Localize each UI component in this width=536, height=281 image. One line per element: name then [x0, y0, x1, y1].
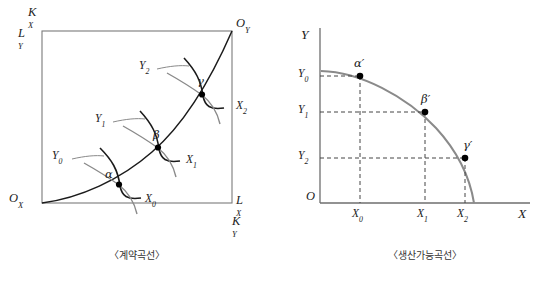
figure-canvas	[0, 0, 536, 281]
label-lx-ky-corner: LX KY	[236, 194, 243, 238]
label-point-gamma: γ	[197, 76, 204, 88]
label-isoquant-x1: X1	[186, 154, 197, 168]
isoquant-y1-curve	[140, 111, 180, 162]
isoquant-x1-curve	[123, 126, 176, 177]
ppf-panel	[320, 28, 530, 203]
label-ppf-y-axis: Y	[301, 28, 309, 42]
leader-line-y1	[113, 119, 145, 122]
tick-label-x2: X2	[457, 208, 468, 222]
label-isoquant-y1: Y1	[95, 113, 105, 127]
ppf-curve	[321, 71, 474, 203]
label-oy-corner: OY	[236, 17, 250, 32]
tick-label-y1: Y1	[298, 104, 308, 118]
label-ox-corner: OX	[9, 192, 23, 207]
edgeworth-box	[42, 31, 232, 203]
tangency-point-beta	[155, 144, 161, 150]
isoquant-y2-curve	[184, 58, 224, 109]
tick-label-x1: X1	[417, 208, 428, 222]
label-isoquant-y0: Y0	[52, 150, 62, 164]
label-isoquant-y2: Y2	[139, 60, 149, 74]
tick-label-x0: X0	[352, 208, 363, 222]
label-kx-lY-corner: KX LY	[18, 6, 36, 50]
caption-contract-curve: 〈계약곡선〉	[82, 247, 192, 262]
ppf-point-gamma-prime	[462, 155, 469, 162]
label-ppf-point-alpha-prime: α′	[354, 58, 364, 70]
label-ppf-point-gamma-prime: γ′	[463, 140, 472, 152]
contract-curve	[42, 31, 232, 203]
label-point-beta: β	[153, 130, 160, 142]
label-ppf-origin: O	[306, 190, 315, 203]
tick-label-y2: Y2	[298, 150, 308, 164]
label-point-alpha: α	[105, 169, 113, 181]
contract-curve-panel	[42, 31, 232, 214]
leader-line-y0	[72, 156, 104, 159]
tangency-point-gamma	[199, 91, 205, 97]
isoquant-x2-curve	[167, 73, 220, 124]
caption-ppf: 〈생산가능곡선〉	[365, 247, 485, 262]
tick-label-y0: Y0	[298, 68, 308, 82]
label-isoquant-x0: X0	[145, 193, 156, 207]
leader-line-y2	[157, 66, 189, 69]
ppf-point-alpha-prime	[357, 73, 364, 80]
tangency-point-alpha	[116, 181, 122, 187]
label-ppf-point-beta-prime: β′	[421, 94, 430, 106]
label-ppf-x-axis: X	[518, 207, 526, 221]
ppf-point-beta-prime	[422, 109, 429, 116]
label-isoquant-x2: X2	[236, 100, 247, 114]
